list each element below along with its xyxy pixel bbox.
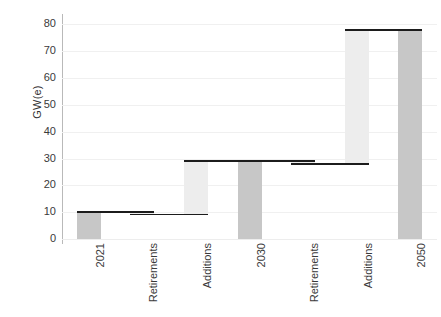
y-axis-tick-labels: 01020304050607080 — [20, 0, 56, 317]
y-tick-40: 40 — [22, 126, 56, 137]
connector-4 — [291, 163, 369, 165]
gridline-40 — [62, 132, 437, 133]
x-tick-5-additions: Additions — [362, 243, 376, 317]
y-tick-10: 10 — [22, 206, 56, 217]
gridline-0 — [62, 239, 437, 240]
y-tick-70: 70 — [22, 45, 56, 56]
gridline-60 — [62, 78, 437, 79]
gridline-80 — [62, 24, 437, 25]
x-tick-2-additions: Additions — [201, 243, 215, 317]
y-tick-80: 80 — [22, 18, 56, 29]
gridline-30 — [62, 159, 437, 160]
bar-2050-6 — [398, 30, 422, 239]
gridline-50 — [62, 105, 437, 106]
y-tick-50: 50 — [22, 99, 56, 110]
x-tick-0-2021: 2021 — [94, 243, 108, 317]
y-tick-0: 0 — [22, 233, 56, 244]
x-tick-1-retirements: Retirements — [147, 243, 161, 317]
x-tick-6-2050: 2050 — [415, 243, 429, 317]
y-tick-20: 20 — [22, 179, 56, 190]
connector-3 — [238, 160, 316, 162]
x-tick-3-2030: 2030 — [255, 243, 269, 317]
gridline-70 — [62, 51, 437, 52]
y-tick-30: 30 — [22, 153, 56, 164]
connector-5 — [345, 29, 423, 31]
bar-2030-3 — [238, 161, 262, 239]
plot-area — [62, 19, 437, 239]
x-axis-tick-labels: 2021RetirementsAdditions2030RetirementsA… — [62, 243, 437, 317]
waterfall-chart: GW(e) 01020304050607080 2021RetirementsA… — [0, 0, 441, 317]
connector-1 — [130, 214, 208, 216]
bar-additions-5 — [345, 30, 369, 164]
bar-additions-2 — [184, 161, 208, 214]
y-tick-60: 60 — [22, 72, 56, 83]
x-tick-4-retirements: Retirements — [308, 243, 322, 317]
bar-2021-0 — [77, 212, 101, 239]
